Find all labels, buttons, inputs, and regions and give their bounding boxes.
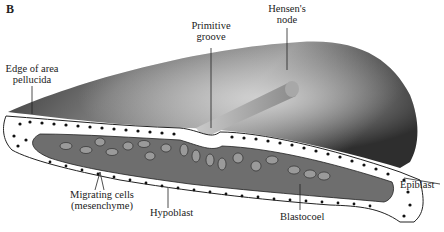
embryo-diagram: B Edge of area pellucida Primitive groov… (0, 0, 444, 232)
label-edge-area-pellucida: Edge of area pellucida (2, 63, 62, 85)
label-blastocoel: Blastocoel (280, 211, 324, 222)
label-hensens-node: Hensen's node (262, 3, 312, 25)
label-primitive-groove: Primitive groove (186, 20, 236, 42)
label-epiblast: Epiblast (400, 179, 434, 190)
panel-letter: B (6, 2, 14, 17)
label-migrating-cells: Migrating cells (mesenchyme) (62, 189, 142, 211)
label-hypoblast: Hypoblast (150, 207, 193, 218)
